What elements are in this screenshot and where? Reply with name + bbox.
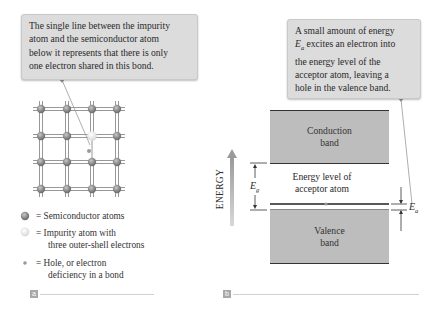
callout-b-pointer	[401, 99, 412, 204]
panel-a-rule	[40, 294, 154, 295]
callout-a-line: The single line between the impurity	[29, 19, 190, 32]
legend-impurity: = Impurity atom with three outer-shell e…	[36, 227, 144, 251]
ea-label: Ea	[409, 201, 418, 214]
panel-b-rule	[233, 294, 419, 295]
ea-bracket	[391, 187, 407, 231]
semiconductor-atoms	[37, 105, 121, 193]
panel-a-label: a	[30, 290, 38, 298]
callout-a-line: below it represents that there is only	[29, 46, 190, 59]
conduction-band: Conduction band	[270, 110, 389, 164]
energy-arrow-shaft	[230, 157, 234, 226]
legend-semiconductor: = Semiconductor atoms	[36, 210, 124, 222]
hole-icon	[23, 261, 27, 265]
semiconductor-atom-icon	[21, 212, 29, 220]
callout-b-line: hole in the valence band.	[295, 81, 413, 94]
callout-a: The single line between the impurity ato…	[21, 14, 198, 80]
hole-marker	[87, 149, 91, 153]
callout-b-line: the energy level of the	[295, 55, 413, 68]
acceptor-level-label: Energy level of acceptor atom	[282, 171, 362, 195]
callout-b-line: Ea excites an electron into	[295, 37, 413, 54]
lattice-bonds	[33, 101, 125, 197]
eg-label: Eg	[250, 180, 259, 193]
acceptor-electron	[324, 202, 327, 205]
legend-hole: = Hole, or electron deficiency in a bond	[36, 257, 124, 281]
panel-b-label: b	[223, 290, 231, 298]
callout-a-line: one electron shared in this bond.	[29, 59, 190, 72]
valence-band: Valence band	[270, 209, 389, 264]
energy-arrow-head	[227, 149, 237, 158]
impurity-atom-icon	[21, 228, 29, 236]
callout-a-line: atom and the semiconductor atom	[29, 32, 190, 45]
callout-b-line: acceptor atom, leaving a	[295, 68, 413, 81]
energy-axis-label: ENERGY	[215, 165, 225, 213]
callout-b-line: A small amount of energy	[295, 24, 413, 37]
callout-b: A small amount of energy Ea excites an e…	[287, 19, 421, 99]
impurity-atom	[87, 131, 97, 141]
